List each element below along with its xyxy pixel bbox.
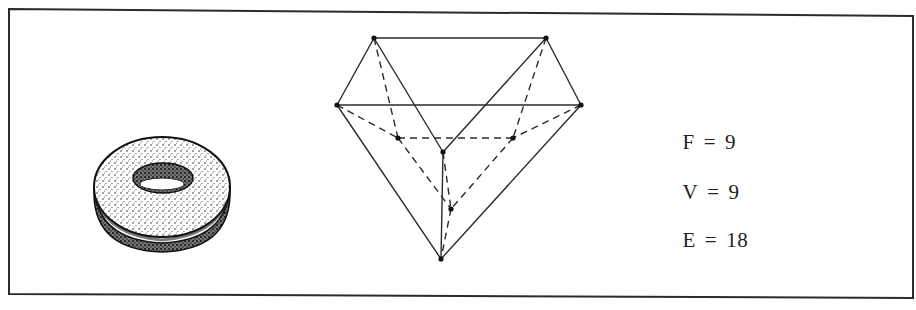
vertex-E <box>395 135 400 140</box>
edges-equation: E=18 <box>648 203 748 278</box>
hidden-edge-GI <box>451 138 513 209</box>
edge-DJ <box>441 105 581 259</box>
hidden-edge-CE <box>337 105 398 138</box>
faces-symbol: F <box>683 130 695 155</box>
hidden-edge-DG <box>513 105 581 138</box>
vertex-I <box>448 206 453 211</box>
hidden-edge-AE <box>374 38 398 138</box>
vertices-symbol: V <box>683 180 699 205</box>
edge-AC <box>337 38 374 105</box>
vertex-C <box>334 102 339 107</box>
edges-value: 18 <box>726 228 748 253</box>
edges-symbol: E <box>683 228 696 253</box>
hidden-edge-IJ <box>441 209 451 259</box>
vertex-G <box>510 135 515 140</box>
vertex-H <box>440 149 445 154</box>
vertex-A <box>371 35 376 40</box>
edge-BD <box>546 38 581 105</box>
equals-sign: = <box>705 228 717 253</box>
polyhedron-diagram <box>0 0 916 310</box>
edge-BH <box>443 38 546 152</box>
vertex-D <box>578 102 583 107</box>
equals-sign: = <box>707 180 719 205</box>
hidden-edge-BG <box>513 38 546 138</box>
equals-sign: = <box>704 130 716 155</box>
edge-CJ <box>337 105 441 259</box>
edge-HJ <box>441 152 443 259</box>
edge-AH <box>374 38 443 152</box>
vertex-B <box>543 35 548 40</box>
vertices-value: 9 <box>729 180 740 205</box>
vertex-J <box>438 256 443 261</box>
faces-value: 9 <box>725 130 736 155</box>
